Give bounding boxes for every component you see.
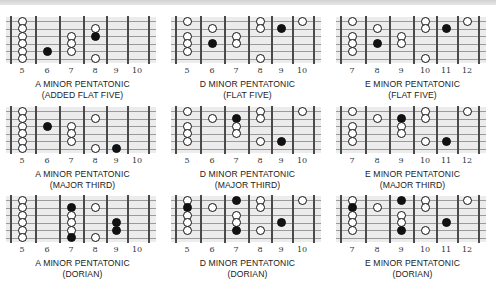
fret-number: 9 [398,156,403,165]
guitar-string [6,111,156,112]
fretboard [6,196,156,242]
fret-line [365,195,367,243]
scale-subtitle: (ADDED FLAT FIVE) [0,90,165,101]
scale-note-dot [463,17,472,26]
scale-note-dot [91,203,100,212]
fret-line [457,195,459,243]
scale-note-dot [256,24,265,33]
fret-line [35,16,37,64]
guitar-string [6,149,156,150]
scale-note-dot [298,107,307,116]
guitar-string [6,223,156,224]
fret-line [83,195,85,243]
fret-line [175,106,177,154]
added-note-dot [277,218,286,227]
fret-line [436,195,438,243]
scale-note-dot [348,17,357,26]
fret-line [10,16,12,64]
fret-line [148,16,150,64]
scale-note-dot [183,107,192,116]
guitar-string [6,200,156,201]
scale-note-dot [183,137,192,146]
scale-note-dot [18,233,27,242]
guitar-string [336,134,486,135]
scale-note-dot [348,137,357,146]
fret-line [106,16,108,64]
scale-title: D MINOR PENTATONIC [165,169,330,180]
fret-number: 8 [92,156,97,165]
guitar-string [336,44,486,45]
fret-line [106,195,108,243]
scale-note-dot [183,226,192,235]
added-note-dot [91,32,100,41]
fret-line [106,106,108,154]
guitar-string [6,59,156,60]
fret-number: 9 [113,66,118,75]
fret-line [148,106,150,154]
guitar-string [6,119,156,120]
fret-line [148,195,150,243]
scale-note-dot [208,114,217,123]
fret-number: 12 [462,156,472,165]
scale-note-dot [397,129,406,138]
guitar-string [336,208,486,209]
fret-number: 7 [68,156,73,165]
fret-line [313,16,315,64]
guitar-string [171,238,321,239]
guitar-string [336,29,486,30]
fret-number: 8 [374,156,379,165]
top-divider [0,0,496,5]
scale-diagram: 5678910D MINOR PENTATONIC(DORIAN) [165,196,330,282]
fret-number: 8 [374,66,379,75]
guitar-string [171,230,321,231]
fret-line [313,106,315,154]
added-note-dot [397,196,406,205]
guitar-string [336,230,486,231]
guitar-string [171,119,321,120]
scale-note-dot [298,196,307,205]
fret-line [478,16,480,64]
fret-number: 5 [184,245,189,254]
fret-number: 6 [209,156,214,165]
fret-line [313,195,315,243]
fret-number: 5 [184,66,189,75]
guitar-string [336,238,486,239]
scale-title: A MINOR PENTATONIC [0,258,165,269]
fret-number: 6 [209,245,214,254]
fret-number: 9 [113,245,118,254]
scale-note-dot [208,203,217,212]
fret-number: 7 [233,66,238,75]
added-note-dot [67,233,76,242]
scale-subtitle: (FLAT FIVE) [165,90,330,101]
scale-note-dot [373,203,382,212]
scale-diagram: 789101112E MINOR PENTATONIC(FLAT FIVE) [330,17,495,109]
fret-number: 10 [297,156,307,165]
fret-line [83,106,85,154]
added-note-dot [43,47,52,56]
guitar-string [6,51,156,52]
scale-diagram: 5678910D MINOR PENTATONIC(FLAT FIVE) [165,17,330,109]
fretboard [336,17,486,63]
scale-note-dot [348,226,357,235]
fret-line [248,106,250,154]
fretboard [171,17,321,63]
fret-number: 11 [441,66,451,75]
fret-line [175,195,177,243]
scale-title: E MINOR PENTATONIC [330,258,495,269]
fret-number: 10 [420,66,430,75]
scale-note-dot [232,39,241,48]
scale-note-dot [67,47,76,56]
guitar-string [336,119,486,120]
guitar-string [171,59,321,60]
fret-number: 9 [278,245,283,254]
scale-note-dot [421,24,430,33]
scale-note-dot [91,144,100,153]
fret-number: 10 [132,245,142,254]
fret-number: 5 [19,156,24,165]
fret-line [271,195,273,243]
fret-number: 11 [441,245,451,254]
guitar-string [171,36,321,37]
scale-note-dot [256,226,265,235]
scale-diagram: 5678910A MINOR PENTATONIC(DORIAN) [0,196,165,282]
added-note-dot [277,24,286,33]
